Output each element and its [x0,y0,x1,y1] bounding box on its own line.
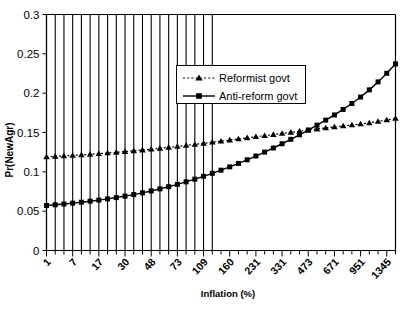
data-point-square [53,202,58,207]
x-tick-label: 7 [66,256,79,269]
x-tick-label: 160 [215,256,236,277]
data-point-triangle [349,122,356,128]
data-point-square [332,112,337,117]
data-point-triangle [78,152,85,158]
data-point-square [140,190,145,195]
y-tick-label: 0.15 [17,127,39,139]
x-tick-label: 951 [346,256,367,277]
data-point-triangle [165,144,172,150]
data-point-square [384,71,389,76]
data-point-square [297,132,302,137]
data-point-square [236,161,241,166]
x-tick-label: 30 [115,256,132,273]
data-point-square [367,87,372,92]
data-point-square [323,118,328,123]
data-point-triangle [357,121,364,127]
data-point-square [114,195,119,200]
legend-label: Reformist govt [219,72,290,84]
x-tick-label: 109 [189,256,210,277]
x-tick-label: 48 [141,256,158,273]
data-point-square [280,141,285,146]
data-point-square [79,200,84,205]
data-point-square [192,177,197,182]
vertical-gridlines [47,15,213,251]
series-reformist-govt [43,115,399,159]
data-point-triangle [52,153,59,159]
data-point-square [219,168,224,173]
data-point-square [288,137,293,142]
data-point-triangle [392,115,399,121]
data-point-triangle [331,124,338,130]
data-point-square [245,157,250,162]
data-point-triangle [375,118,382,124]
data-point-square [314,123,319,128]
data-point-square [306,128,311,133]
data-point-square [175,182,180,187]
data-point-triangle [270,131,277,137]
data-point-square [70,201,75,206]
x-tick-label: 473 [294,256,315,277]
data-point-square [184,179,189,184]
data-point-triangle [157,145,164,151]
data-point-triangle [174,143,181,149]
data-point-square [201,174,206,179]
data-point-triangle [192,141,199,147]
data-point-triangle [87,151,94,157]
x-axis-title: Inflation (%) [201,288,255,299]
data-point-square [262,150,267,155]
data-point-square [88,199,93,204]
y-tick-label: 0.25 [17,48,39,60]
x-tick-label: 1 [40,256,53,269]
inflation-probability-line-chart: 00.050.10.150.20.250.3 17173048731091602… [0,0,405,310]
chart-figure: 00.050.10.150.20.250.3 17173048731091602… [0,0,405,310]
y-axis-title: Pr(NewAgr) [4,122,15,177]
data-point-triangle [244,135,251,141]
x-tick-label: 231 [242,256,263,277]
data-point-square [196,93,202,99]
data-point-square [96,198,101,203]
x-tick-label: 1345 [369,256,394,281]
y-tick-label: 0.1 [24,166,40,178]
data-point-square [358,95,363,100]
data-point-square [341,107,346,112]
data-point-square [105,196,110,201]
data-point-triangle [69,152,76,158]
data-point-square [131,192,136,197]
data-point-square [393,61,398,66]
data-point-square [166,184,171,189]
x-axis-ticks [47,251,396,257]
x-tick-label: 17 [89,256,106,273]
data-point-square [123,194,128,199]
x-tick-label: 671 [320,256,341,277]
data-point-square [376,79,381,84]
data-point-triangle [261,132,268,138]
data-point-square [271,145,276,150]
data-point-square [61,202,66,207]
y-tick-label: 0 [33,245,39,257]
x-axis-tick-labels: 17173048731091602313314736719511345 [40,256,393,281]
data-point-square [149,188,154,193]
data-point-square [157,186,162,191]
data-point-triangle [43,154,50,160]
y-tick-label: 0.2 [24,87,40,99]
chart-legend: Reformist govtAnti-reform govt [177,66,306,104]
data-point-square [227,164,232,169]
y-tick-label: 0.05 [17,205,39,217]
data-point-triangle [183,142,190,148]
y-axis-tick-labels: 00.050.10.150.20.250.3 [17,9,39,257]
x-tick-label: 73 [167,256,184,273]
data-point-triangle [340,123,347,129]
data-point-square [44,203,49,208]
data-point-triangle [253,133,260,139]
data-point-triangle [279,130,286,136]
data-point-square [210,171,215,176]
data-point-triangle [366,120,373,126]
y-tick-label: 0.3 [24,9,40,21]
data-point-triangle [148,146,155,152]
x-tick-label: 331 [268,256,289,277]
legend-label: Anti-reform govt [219,90,297,102]
data-point-square [253,154,258,159]
data-point-square [349,101,354,106]
data-point-triangle [61,153,67,159]
